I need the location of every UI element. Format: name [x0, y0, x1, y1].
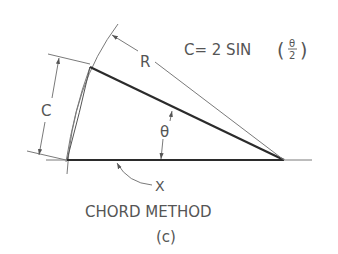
formula-prefix: C= 2 SIN: [184, 41, 251, 59]
angle-label: θ: [160, 123, 169, 141]
distance-label: X: [155, 178, 165, 194]
radius-dimension-line-b: [155, 62, 284, 160]
distance-leader: [117, 163, 152, 185]
formula-close-paren: ): [300, 39, 307, 61]
chord-label: C: [41, 102, 51, 120]
formula-open-paren: (: [277, 39, 284, 61]
chord-extension-top: [48, 54, 90, 64]
chord-dimension-line-bottom: [39, 122, 45, 155]
subcaption: (c): [156, 228, 176, 246]
chord-line: [67, 67, 90, 160]
chord-extension-bottom: [27, 151, 66, 160]
angle-arrow-bottom: [161, 139, 163, 159]
chord-dimension-line-top: [52, 58, 59, 98]
chord-method-diagram: R C θ X C= 2 SIN ( θ 2 ) CHORD METHOD (c…: [0, 0, 338, 254]
upper-side-line: [90, 67, 284, 160]
radius-dimension-line-a: [112, 35, 138, 51]
caption: CHORD METHOD: [85, 203, 212, 221]
formula-numerator: θ: [289, 38, 295, 49]
formula-denominator: 2: [289, 50, 295, 61]
angle-arrow-top: [170, 111, 172, 121]
radius-label: R: [140, 53, 150, 71]
radius-arc: [67, 24, 118, 174]
